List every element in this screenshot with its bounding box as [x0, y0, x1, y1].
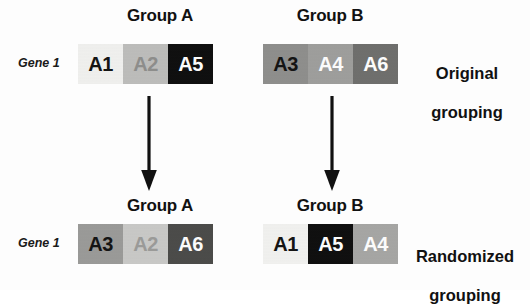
heatmap-cell-label: A1 — [273, 234, 298, 254]
caption-line-1: Randomized — [399, 247, 530, 266]
heatmap-cell-label: A6 — [363, 54, 388, 74]
caption-line-2: grouping — [408, 103, 526, 122]
heatmap-cell-a1: A1 — [78, 44, 123, 84]
heatmap-cell-a4: A4 — [353, 224, 398, 264]
heatmap-strip-original-group-a: A1 A2 A5 — [78, 44, 213, 84]
group-title-randomized-b: Group B — [270, 196, 390, 216]
group-title-original-b: Group B — [270, 6, 390, 26]
arrow-down-group-b — [321, 96, 343, 192]
heatmap-cell-a1: A1 — [263, 224, 308, 264]
heatmap-cell-label: A1 — [88, 54, 113, 74]
heatmap-cell-label: A2 — [133, 54, 158, 74]
gene-label-randomized: Gene 1 — [18, 236, 60, 250]
gene-label-original: Gene 1 — [18, 56, 60, 70]
heatmap-strip-randomized-group-b: A1 A5 A4 — [263, 224, 398, 264]
heatmap-cell-label: A2 — [133, 234, 158, 254]
heatmap-cell-a2: A2 — [123, 224, 168, 264]
heatmap-strip-original-group-b: A3 A4 A6 — [263, 44, 398, 84]
heatmap-cell-label: A4 — [363, 234, 388, 254]
heatmap-cell-label: A3 — [88, 234, 113, 254]
heatmap-cell-a4: A4 — [308, 44, 353, 84]
heatmap-cell-label: A6 — [178, 234, 203, 254]
heatmap-cell-label: A3 — [273, 54, 298, 74]
heatmap-cell-a6: A6 — [168, 224, 213, 264]
heatmap-cell-a5: A5 — [308, 224, 353, 264]
heatmap-cell-label: A4 — [318, 54, 343, 74]
heatmap-cell-a5: A5 — [168, 44, 213, 84]
caption-original-grouping: Original grouping — [408, 45, 526, 141]
heatmap-cell-label: A5 — [178, 54, 203, 74]
group-title-original-a: Group A — [100, 6, 220, 26]
group-title-randomized-a: Group A — [100, 196, 220, 216]
caption-randomized-grouping: Randomized grouping — [399, 228, 530, 308]
caption-line-1: Original — [408, 64, 526, 83]
heatmap-cell-a3: A3 — [78, 224, 123, 264]
heatmap-cell-a6: A6 — [353, 44, 398, 84]
heatmap-cell-a2: A2 — [123, 44, 168, 84]
heatmap-cell-label: A5 — [318, 234, 343, 254]
arrow-down-group-a — [138, 96, 160, 192]
heatmap-strip-randomized-group-a: A3 A2 A6 — [78, 224, 213, 264]
heatmap-cell-a3: A3 — [263, 44, 308, 84]
caption-line-2: grouping — [399, 286, 530, 305]
